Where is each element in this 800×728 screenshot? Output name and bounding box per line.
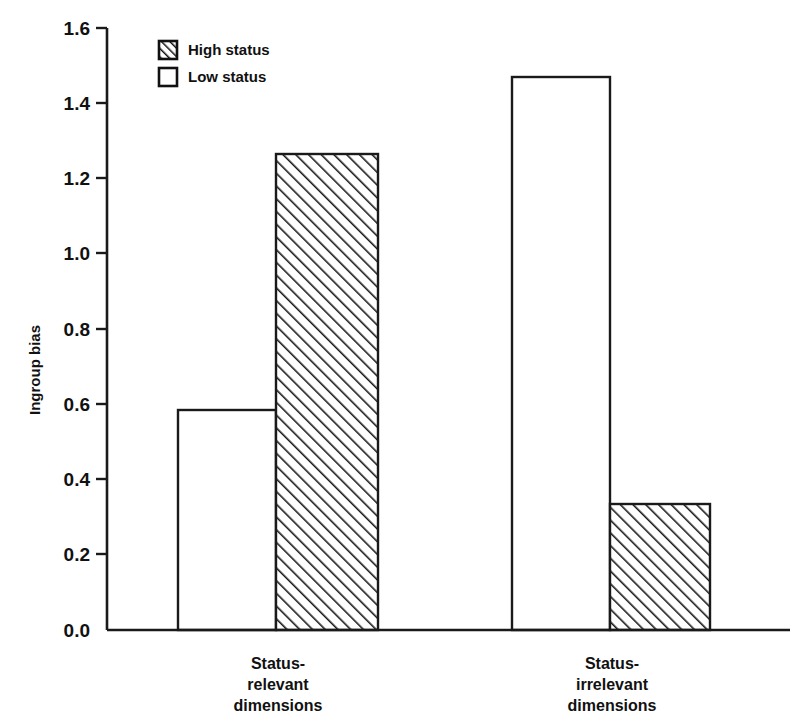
ingroup-bias-bar-chart: 1.6 1.4 1.2 1.0 0.8 0.6 0.4 0.2 0.0 Ingr… <box>0 0 800 728</box>
category-label-line: dimensions <box>234 697 323 714</box>
bar-high-status-status-relevant <box>276 154 378 630</box>
category-label-line: Status- <box>585 655 639 672</box>
bar-low-status-status-relevant <box>178 410 276 630</box>
bar-high-status-status-irrelevant <box>610 504 710 630</box>
y-tick-label: 0.6 <box>64 394 90 415</box>
category-label-line: irrelevant <box>576 676 649 693</box>
category-label-line: dimensions <box>568 697 657 714</box>
y-axis-tick-labels: 1.6 1.4 1.2 1.0 0.8 0.6 0.4 0.2 0.0 <box>64 18 91 641</box>
y-axis-title: Ingroup bias <box>26 325 43 415</box>
chart-page: 1.6 1.4 1.2 1.0 0.8 0.6 0.4 0.2 0.0 Ingr… <box>0 0 800 728</box>
legend-entry-high-status: High status <box>159 41 270 59</box>
y-tick-label: 1.0 <box>64 243 90 264</box>
y-tick-label: 0.0 <box>64 620 90 641</box>
y-tick-label: 1.6 <box>64 18 90 39</box>
category-label-line: Status- <box>251 655 305 672</box>
legend-entry-low-status: Low status <box>159 68 266 86</box>
y-tick-label: 1.2 <box>64 168 90 189</box>
open-square-icon <box>159 68 177 86</box>
y-tick-label: 0.4 <box>64 469 91 490</box>
legend-label: High status <box>188 41 270 58</box>
y-tick-label: 0.8 <box>64 319 90 340</box>
bar-low-status-status-irrelevant <box>512 77 610 630</box>
y-tick-label: 0.2 <box>64 544 90 565</box>
category-label-line: relevant <box>247 676 309 693</box>
hatched-square-icon <box>159 41 177 59</box>
legend-label: Low status <box>188 68 266 85</box>
y-tick-label: 1.4 <box>64 93 91 114</box>
